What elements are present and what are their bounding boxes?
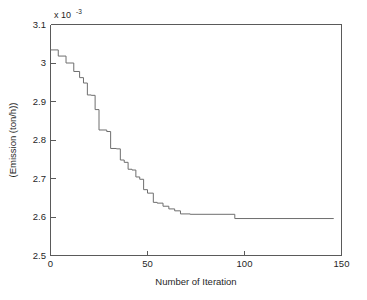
x-tick-label-1: 50 xyxy=(142,258,153,269)
y-tick-label-2: 2.7 xyxy=(33,173,46,184)
y-tick-label-1: 2.6 xyxy=(33,211,46,222)
x-tick-label-2: 100 xyxy=(237,258,253,269)
y-tick-label-3: 2.8 xyxy=(33,134,46,145)
y-tick-labels: 2.5 2.6 2.7 2.8 2.9 3 3.1 xyxy=(33,19,46,261)
x-tick-labels: 0 50 100 150 xyxy=(48,258,350,269)
y-exponent-base: x 10 xyxy=(54,10,71,20)
y-tick-label-4: 2.9 xyxy=(33,96,46,107)
x-tick-label-0: 0 xyxy=(48,258,53,269)
y-exponent-power: -3 xyxy=(76,8,82,15)
x-axis-title: Number of Iteration xyxy=(155,276,236,287)
chart-figure: 2.5 2.6 2.7 2.8 2.9 3 3.1 0 50 100 150 x… xyxy=(0,0,367,300)
y-axis-exponent-label: x 10 -3 xyxy=(54,8,82,20)
plot-area-background xyxy=(50,24,341,255)
y-tick-label-0: 2.5 xyxy=(33,250,46,261)
y-tick-label-6: 3.1 xyxy=(33,19,46,30)
emission-convergence-chart: 2.5 2.6 2.7 2.8 2.9 3 3.1 0 50 100 150 x… xyxy=(0,0,367,300)
y-axis-title: (Emission (ton/h)) xyxy=(7,103,18,178)
x-tick-label-3: 150 xyxy=(334,258,350,269)
y-tick-label-5: 3 xyxy=(41,57,46,68)
